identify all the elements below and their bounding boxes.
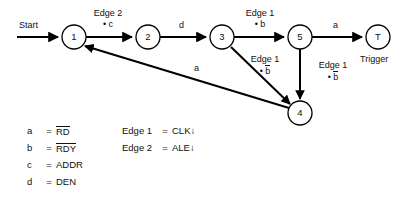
legend-edge-key: Edge 2 (122, 143, 158, 153)
diagram-canvas: 1 2 3 5 T 4 Trigger Start Edge 2 • c d E… (0, 0, 405, 198)
edge-5-to-4-label-line1: Edge 1 (308, 60, 358, 71)
edge-5-to-T-label: a (333, 20, 338, 30)
legend-signal-eq: = (42, 126, 56, 136)
legend-row: d = DEN (27, 177, 83, 194)
edge-3-to-4-label-line1: Edge 1 (240, 54, 290, 65)
legend-signal-key: c (27, 160, 42, 170)
edge-1-to-2-label: Edge 2 • c (80, 8, 136, 30)
legend-signal-value: RDY (56, 143, 76, 154)
legend-signal-value: RD (56, 126, 70, 137)
start-label: Start (19, 20, 38, 30)
legend-signal-value: DEN (56, 177, 76, 187)
edge-1-to-2-label-line2: • c (80, 19, 136, 30)
legend-edge-eq: = (158, 126, 172, 136)
state-node-2-label: 2 (136, 32, 160, 42)
legend-edge-value: CLK↓ (172, 126, 195, 136)
edge-3-to-5-label-line2: • b (232, 19, 288, 30)
edge-3-to-4-label-line2: b (265, 65, 270, 76)
edge-5-to-4-label-line2-wrap: • b (308, 71, 358, 83)
legend-signal-key: b (27, 143, 42, 153)
legend-row: c = ADDR (27, 160, 83, 177)
legend-signal-eq: = (42, 143, 56, 153)
edge-2-to-3-label: d (179, 20, 184, 30)
state-node-3-label: 3 (210, 32, 234, 42)
edge-3-to-5-label: Edge 1 • b (232, 8, 288, 30)
edge-3-to-4-label-line2-wrap: • b (240, 65, 290, 77)
legend-row: a = RD (27, 126, 83, 143)
legend-signals: a = RD b = RDY c = ADDR d = DEN (27, 126, 83, 194)
edge-5-to-4-label: Edge 1 • b (308, 60, 358, 83)
legend-signal-eq: = (42, 160, 56, 170)
legend-signal-eq: = (42, 177, 56, 187)
legend-row: Edge 1 = CLK↓ (122, 126, 195, 143)
legend-row: b = RDY (27, 143, 83, 160)
legend-row: Edge 2 = ALE↓ (122, 143, 195, 160)
state-node-4-label: 4 (288, 108, 312, 118)
legend-signal-key: d (27, 177, 42, 187)
edge-3-to-5-label-line1: Edge 1 (232, 8, 288, 19)
legend-edge-value: ALE↓ (172, 143, 195, 153)
trigger-caption: Trigger (360, 54, 388, 64)
legend-signal-key: a (27, 126, 42, 136)
edge-4-to-1-label: a (194, 63, 199, 73)
legend-edge-eq: = (158, 143, 172, 153)
edge-1-to-2-label-line1: Edge 2 (80, 8, 136, 19)
edge-5-to-4-label-line2: b (333, 71, 338, 82)
legend-signal-value: ADDR (56, 160, 83, 170)
edge-3-to-4-label: Edge 1 • b (240, 54, 290, 77)
legend-edges: Edge 1 = CLK↓ Edge 2 = ALE↓ (122, 126, 195, 160)
state-node-1-label: 1 (62, 32, 86, 42)
state-node-T-label: T (366, 32, 390, 42)
legend-edge-key: Edge 1 (122, 126, 158, 136)
state-node-5-label: 5 (288, 32, 312, 42)
